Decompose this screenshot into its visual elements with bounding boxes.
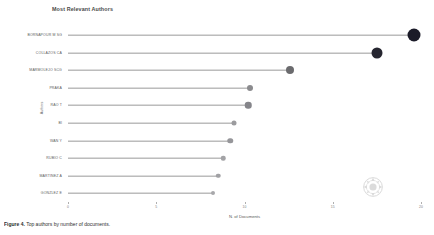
chart-row: BORNAPOUR M SG [68, 28, 421, 42]
x-tick-label: 20 [419, 205, 423, 209]
chart-row: BI [68, 116, 421, 130]
chart-row: COLLAZOS CA [68, 46, 421, 60]
data-point-marker [407, 29, 420, 42]
data-point-marker [221, 156, 226, 161]
author-label: RAO T [51, 103, 62, 107]
figure-root: Most Relevant Authors Authors BORNAPOUR … [0, 0, 434, 235]
figure-caption: Figure 4. Top authors by number of docum… [4, 221, 432, 227]
data-point-marker [286, 66, 294, 74]
author-label: RUBIO C [46, 156, 62, 160]
y-axis-label: Authors [40, 78, 44, 138]
chart-row: RAO T [68, 98, 421, 112]
plot-area: Authors BORNAPOUR M SGCOLLAZOS CAMARMOLE… [68, 22, 421, 202]
stem-line [68, 140, 230, 141]
stem-line [68, 193, 213, 194]
x-tick-mark [245, 202, 246, 204]
author-label: MARTINEZ A [40, 174, 62, 178]
stem-line [68, 35, 414, 36]
figure-caption-label: Figure 4. [4, 221, 25, 227]
stem-line [68, 123, 234, 124]
figure-caption-text: Top authors by number of documents. [26, 221, 110, 227]
data-point-marker [231, 121, 236, 126]
stem-line [68, 175, 218, 176]
stem-line [68, 158, 223, 159]
x-tick-mark [333, 202, 334, 204]
data-point-marker [228, 138, 234, 144]
chart-row: RUBIO C [68, 151, 421, 165]
x-tick-label: 5 [155, 205, 157, 209]
author-label: GONZLEZ E [41, 191, 62, 195]
x-tick-mark [68, 202, 69, 204]
x-tick-mark [156, 202, 157, 204]
x-axis-label: N. of Documents [68, 214, 421, 219]
chart-row: PRAKA [68, 81, 421, 95]
data-point-marker [211, 191, 215, 195]
circular-logo-watermark [362, 176, 384, 198]
x-axis-ticks: 05101520 [68, 202, 421, 214]
data-point-marker [247, 85, 253, 91]
stem-line [68, 105, 248, 106]
author-label: PRAKA [49, 86, 62, 90]
x-tick-label: 0 [67, 205, 69, 209]
author-label: BI [58, 121, 62, 125]
x-tick-label: 15 [331, 205, 335, 209]
author-label: MARMOLEJO SCG [29, 68, 62, 72]
data-point-marker [245, 102, 252, 109]
author-label: COLLAZOS CA [36, 51, 62, 55]
stem-line [68, 52, 377, 53]
x-tick-mark [421, 202, 422, 204]
chart-row: WAN Y [68, 134, 421, 148]
data-point-marker [216, 174, 221, 179]
author-label: WAN Y [50, 139, 62, 143]
chart-title: Most Relevant Authors [52, 6, 113, 12]
data-point-marker [371, 47, 382, 58]
stem-line [68, 70, 290, 71]
chart-row: MARMOLEJO SCG [68, 63, 421, 77]
stem-line [68, 87, 250, 88]
author-label: BORNAPOUR M SG [27, 33, 62, 37]
x-tick-label: 10 [243, 205, 247, 209]
